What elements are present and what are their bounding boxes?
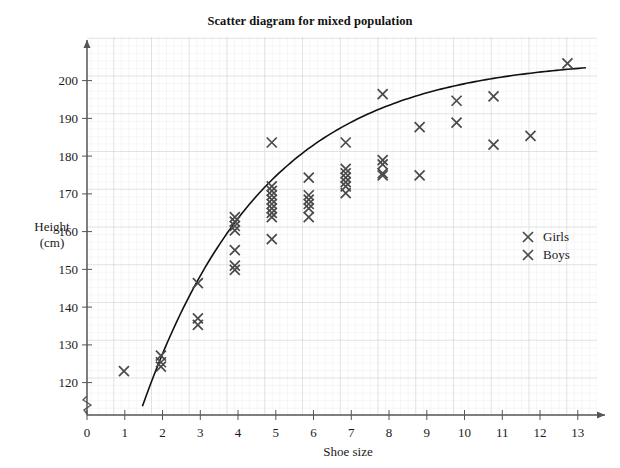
x-tick-8: 8 (386, 425, 393, 440)
y-tick-180: 180 (59, 149, 79, 164)
x-tick-9: 9 (424, 425, 431, 440)
x-tick-13: 13 (571, 425, 584, 440)
y-axis-title-units: (cm) (40, 235, 65, 250)
x-tick-0: 0 (84, 425, 91, 440)
y-axis-title-text: Height (34, 219, 70, 234)
x-tick-7: 7 (348, 425, 355, 440)
x-tick-12: 12 (534, 425, 547, 440)
y-tick-200: 200 (59, 73, 79, 88)
legend-label-girls: Girls (543, 229, 569, 244)
y-tick-150: 150 (59, 262, 79, 277)
x-tick-4: 4 (235, 425, 242, 440)
x-tick-labels: 0 1 2 3 4 5 6 7 8 9 10 11 12 13 (84, 425, 585, 440)
legend-label-boys: Boys (543, 247, 570, 262)
y-tick-120: 120 (59, 375, 79, 390)
y-tick-190: 190 (59, 111, 79, 126)
x-axis-title: Shoe size (323, 444, 373, 459)
x-tick-1: 1 (122, 425, 129, 440)
x-tick-2: 2 (159, 425, 166, 440)
x-tick-3: 3 (197, 425, 204, 440)
y-tick-170: 170 (59, 186, 79, 201)
x-tick-11: 11 (496, 425, 509, 440)
y-tick-140: 140 (59, 300, 79, 315)
y-tick-130: 130 (59, 337, 79, 352)
x-tick-10: 10 (458, 425, 471, 440)
x-tick-5: 5 (273, 425, 280, 440)
scatter-chart: Scatter diagram for mixed population (0, 0, 620, 468)
x-tick-6: 6 (310, 425, 317, 440)
plot-area: 120 130 140 150 160 170 180 190 200 Heig… (0, 0, 620, 468)
